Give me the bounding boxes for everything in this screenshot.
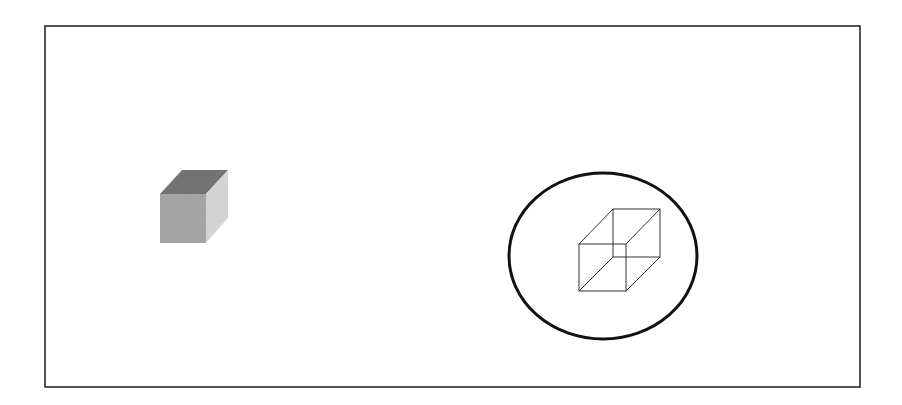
wireframe-edge xyxy=(579,209,613,244)
solid-cube-front-face xyxy=(160,194,206,243)
wireframe-edge xyxy=(626,257,660,291)
wireframe-cube-icon xyxy=(579,209,660,291)
solid-cube-icon xyxy=(160,170,228,243)
diagram-canvas xyxy=(0,0,902,405)
wireframe-edge xyxy=(626,209,660,244)
highlight-ellipse xyxy=(509,173,697,339)
wireframe-edge xyxy=(579,257,613,291)
